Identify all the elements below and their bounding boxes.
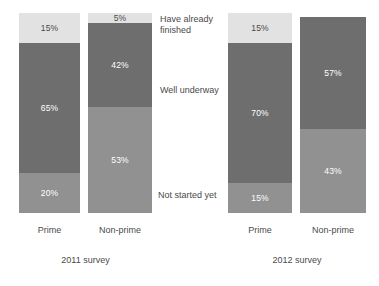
bar-segment-value: 15% — [41, 24, 58, 33]
bar-segment-not-started-yet: 20% — [19, 173, 80, 213]
legend-label-have-already-finished: Have already finished — [160, 14, 213, 37]
bar-segment-not-started-yet: 53% — [88, 107, 152, 213]
legend-label-line2: finished — [160, 25, 213, 36]
legend-label-line1: Have already — [160, 14, 213, 25]
bar-segment-value: 65% — [41, 104, 58, 113]
bar-segment-value: 15% — [251, 194, 268, 203]
legend-label-not-started-yet: Not started yet — [158, 190, 217, 201]
axis-tick-2011-prime: Prime — [19, 225, 80, 235]
bar-segment-well-underway: 70% — [228, 43, 292, 183]
bar-segment-value: 42% — [111, 61, 128, 70]
legend-label-well-underway: Well underway — [160, 85, 219, 96]
bar-segment-not-started-yet: 43% — [300, 129, 366, 213]
axis-tick-2012-prime: Prime — [228, 225, 292, 235]
bar-2011-prime: 15% 65% 20% — [19, 13, 80, 213]
bar-segment-value: 43% — [324, 167, 341, 176]
group-label-2012-survey: 2012 survey — [228, 255, 366, 265]
bar-segment-have-already-finished: 5% — [88, 13, 152, 23]
bar-segment-value: 53% — [111, 156, 128, 165]
bar-2011-nonprime: 5% 42% 53% — [88, 13, 152, 213]
bar-segment-well-underway: 65% — [19, 43, 80, 173]
axis-tick-2011-nonprime: Non-prime — [88, 225, 152, 235]
bar-2012-nonprime: 57% 43% — [300, 17, 366, 213]
bar-segment-value: 5% — [114, 14, 127, 23]
bar-segment-value: 20% — [41, 189, 58, 198]
bar-segment-not-started-yet: 15% — [228, 183, 292, 213]
bar-segment-have-already-finished: 15% — [228, 13, 292, 43]
bar-segment-well-underway: 57% — [300, 17, 366, 129]
stacked-bar-chart: 15% 65% 20% 5% 42% 53% Have already fini… — [0, 0, 379, 286]
bar-segment-value: 70% — [251, 109, 268, 118]
bar-segment-value: 57% — [324, 69, 341, 78]
bar-segment-value: 15% — [251, 24, 268, 33]
bar-segment-well-underway: 42% — [88, 23, 152, 107]
bar-2012-prime: 15% 70% 15% — [228, 13, 292, 213]
bar-segment-have-already-finished: 15% — [19, 13, 80, 43]
axis-tick-2012-nonprime: Non-prime — [300, 225, 366, 235]
group-label-2011-survey: 2011 survey — [19, 255, 152, 265]
